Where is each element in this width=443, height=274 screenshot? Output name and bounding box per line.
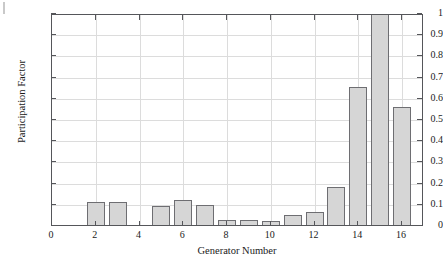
x-tick-mark (357, 221, 358, 226)
y-axis-title: Participation Factor (16, 37, 27, 167)
gridline-vertical (315, 15, 316, 225)
gridline-vertical (96, 15, 97, 225)
x-tick-label: 12 (299, 229, 329, 240)
y-tick-mark (51, 183, 56, 184)
plot-area (51, 14, 423, 226)
y-tick-mark (51, 13, 56, 14)
y-tick-label: 0.2 (399, 178, 443, 188)
bar (174, 200, 192, 225)
bar (196, 205, 214, 225)
gridline-horizontal (52, 78, 422, 79)
bar (152, 206, 170, 225)
bar (327, 187, 345, 225)
gridline-vertical (140, 15, 141, 225)
y-tick-mark (51, 161, 56, 162)
y-tick-label: 0.3 (399, 156, 443, 166)
x-tick-mark-top (357, 15, 358, 20)
x-tick-label: 14 (342, 229, 372, 240)
x-tick-mark (139, 221, 140, 226)
y-tick-mark (51, 98, 56, 99)
bar (87, 202, 105, 225)
figure-canvas: 00.10.20.30.40.50.60.70.80.91 0246810121… (0, 0, 443, 274)
y-tick-mark (51, 204, 56, 205)
y-tick-mark (51, 55, 56, 56)
y-tick-mark (51, 34, 56, 35)
x-tick-mark (95, 221, 96, 226)
x-tick-label: 0 (36, 229, 66, 240)
y-tick-label: 0.7 (399, 72, 443, 82)
x-tick-mark-top (314, 15, 315, 20)
x-tick-mark-top (182, 15, 183, 20)
gridline-vertical (183, 15, 184, 225)
bar (109, 202, 127, 225)
y-tick-mark (51, 119, 56, 120)
x-tick-label: 8 (211, 229, 241, 240)
x-tick-mark (401, 221, 402, 226)
x-tick-mark-top (139, 15, 140, 20)
x-tick-mark (51, 221, 52, 226)
x-tick-mark-top (401, 15, 402, 20)
gridline-vertical (227, 15, 228, 225)
x-tick-mark-top (51, 15, 52, 20)
y-tick-label: 0.1 (399, 199, 443, 209)
y-tick-label: 0.6 (399, 93, 443, 103)
bar (284, 215, 302, 225)
gridline-horizontal (52, 56, 422, 57)
y-tick-mark (51, 140, 56, 141)
gridline-vertical (271, 15, 272, 225)
bar (349, 87, 367, 225)
page-edge-artifact (3, 2, 5, 14)
bar (240, 220, 258, 226)
bar (262, 221, 280, 225)
y-tick-label: 1 (399, 8, 443, 18)
y-tick-label: 0.4 (399, 135, 443, 145)
x-tick-mark-top (226, 15, 227, 20)
x-tick-mark-top (95, 15, 96, 20)
gridline-horizontal (52, 35, 422, 36)
y-tick-mark (51, 77, 56, 78)
bar (306, 212, 324, 225)
x-tick-label: 6 (167, 229, 197, 240)
x-tick-label: 10 (255, 229, 285, 240)
x-tick-label: 2 (80, 229, 110, 240)
x-axis-title: Generator Number (51, 245, 423, 257)
y-tick-label: 0.5 (399, 114, 443, 124)
x-tick-label: 16 (386, 229, 416, 240)
x-tick-mark-top (270, 15, 271, 20)
y-tick-label: 0.9 (399, 29, 443, 39)
bar (371, 14, 389, 225)
gridline-horizontal (52, 14, 422, 15)
x-tick-mark (182, 221, 183, 226)
x-tick-mark (226, 221, 227, 226)
y-tick-label: 0.8 (399, 50, 443, 60)
bar (218, 220, 236, 225)
x-tick-label: 4 (124, 229, 154, 240)
x-tick-mark (270, 221, 271, 226)
x-tick-mark (314, 221, 315, 226)
